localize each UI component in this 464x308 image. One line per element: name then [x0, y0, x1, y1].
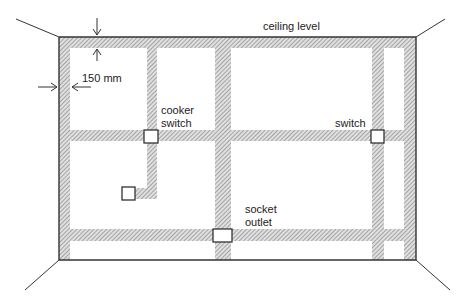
socket-outlet-label-line2: outlet	[245, 216, 277, 229]
cooker-switch-label-line1: cooker	[161, 104, 194, 117]
zone-ceiling	[59, 37, 416, 48]
zone-left-corner	[59, 37, 70, 260]
dimension-label: 150 mm	[82, 72, 122, 85]
socket-outlet-label-line1: socket	[245, 203, 277, 216]
socket-outlet-box	[213, 229, 232, 242]
room-perspective-lines	[16, 19, 450, 290]
switch-label: switch	[335, 117, 366, 130]
socket-outlet-label: socket outlet	[245, 203, 277, 229]
zone-cooker-switch-vertical	[147, 37, 157, 141]
cooker-switch-label: cooker switch	[161, 104, 194, 130]
zone-right-corner	[404, 37, 416, 260]
cooker-switch-label-line2: switch	[161, 117, 194, 130]
cooker-switch-box	[144, 130, 158, 143]
corner-line-top-right	[416, 19, 445, 37]
switch-box	[371, 130, 384, 143]
wall-diagram	[0, 0, 464, 308]
zone-switch-vertical	[372, 37, 384, 260]
ceiling-level-label: ceiling level	[263, 20, 320, 33]
corner-line-top-left	[16, 19, 59, 37]
safe-zones	[59, 37, 416, 260]
corner-line-bottom-left	[25, 260, 59, 290]
zone-switch-horizontal	[59, 130, 404, 141]
zone-socket-vertical	[215, 37, 231, 260]
cooker-outlet-box	[122, 187, 135, 200]
corner-line-bottom-right	[416, 260, 450, 290]
wall-outline	[59, 37, 416, 260]
